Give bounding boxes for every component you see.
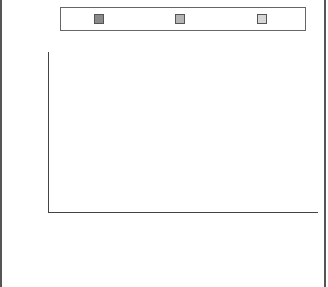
y-axis — [48, 52, 49, 212]
x-axis — [48, 212, 318, 213]
swatch-private — [175, 14, 185, 24]
swatch-public — [257, 14, 267, 24]
legend-item-private — [175, 14, 190, 24]
legend-item-public — [257, 14, 272, 24]
legend — [60, 7, 306, 31]
legend-item-uninsured — [94, 14, 109, 24]
swatch-uninsured — [94, 14, 104, 24]
